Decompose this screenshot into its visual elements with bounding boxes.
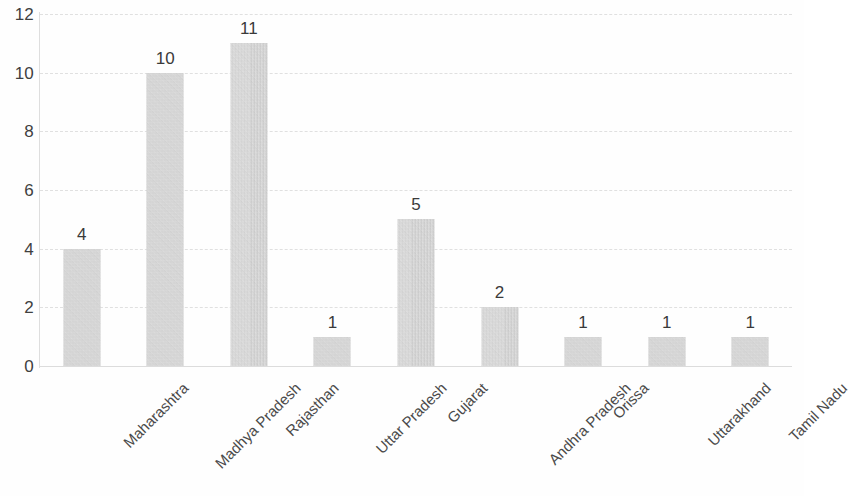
bar[interactable] — [314, 337, 351, 366]
bar-slot: 10 — [124, 14, 208, 366]
bar-slot: 1 — [708, 14, 792, 366]
plot-area: 41011152111 — [40, 14, 792, 366]
bar[interactable] — [147, 73, 184, 366]
bar-slot: 11 — [207, 14, 291, 366]
category-label: Gujarat — [444, 380, 489, 425]
bar-slot: 1 — [541, 14, 625, 366]
bar[interactable] — [63, 249, 100, 366]
bar-value-label: 2 — [495, 284, 504, 301]
bar-value-label: 11 — [240, 20, 258, 37]
bar-value-label: 1 — [328, 314, 337, 331]
x-axis-category-labels: MaharashtraMadhya PradeshRajasthanUttar … — [40, 366, 792, 496]
bar[interactable] — [565, 337, 602, 366]
bar-value-label: 1 — [578, 314, 587, 331]
y-tick-label-2: 2 — [0, 299, 34, 316]
category-label: Uttar Pradesh — [374, 380, 450, 456]
y-tick-label-4: 4 — [0, 240, 34, 257]
bar-slot: 2 — [458, 14, 542, 366]
bar-value-label: 1 — [662, 314, 671, 331]
bar-value-label: 5 — [411, 196, 420, 213]
bar-value-label: 10 — [156, 50, 175, 67]
bar-value-label: 4 — [77, 226, 86, 243]
bar-value-label: 1 — [745, 314, 754, 331]
y-axis-labels: 024681012 — [0, 14, 34, 366]
bar[interactable] — [481, 307, 518, 366]
y-tick-label-12: 12 — [0, 6, 34, 23]
y-tick-label-10: 10 — [0, 64, 34, 81]
bar[interactable] — [230, 43, 267, 366]
bar-slot: 1 — [625, 14, 709, 366]
y-tick-label-0: 0 — [0, 358, 34, 375]
bar-slot: 5 — [374, 14, 458, 366]
bar-slot: 4 — [40, 14, 124, 366]
bar[interactable] — [397, 219, 434, 366]
category-label: Uttarakhand — [705, 380, 773, 448]
bar[interactable] — [732, 337, 769, 366]
category-label: Tamil Nadu — [786, 380, 850, 444]
y-tick-label-6: 6 — [0, 182, 34, 199]
y-tick-label-8: 8 — [0, 123, 34, 140]
bars-layer: 41011152111 — [40, 14, 792, 366]
bar-slot: 1 — [291, 14, 375, 366]
bar[interactable] — [648, 337, 685, 366]
category-label: Andhra Pradesh — [545, 380, 632, 467]
category-label: Maharashtra — [120, 380, 190, 450]
